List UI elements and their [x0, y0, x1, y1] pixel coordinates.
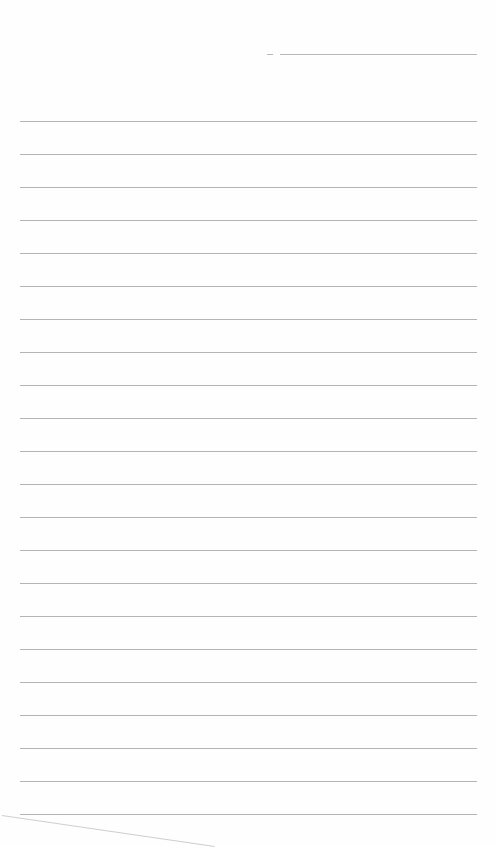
- ruled-line: [20, 253, 477, 254]
- ruled-line: [20, 451, 477, 452]
- header-long-line: [280, 54, 477, 55]
- ruled-line: [20, 286, 477, 287]
- ruled-line: [20, 517, 477, 518]
- ruled-line: [20, 154, 477, 155]
- paper-crease: [2, 815, 215, 847]
- ruled-line: [20, 649, 477, 650]
- ruled-line: [20, 187, 477, 188]
- ruled-line: [20, 418, 477, 419]
- ruled-line: [20, 616, 477, 617]
- ruled-line: [20, 814, 477, 815]
- ruled-line: [20, 550, 477, 551]
- ruled-line: [20, 385, 477, 386]
- ruled-line: [20, 682, 477, 683]
- ruled-line: [20, 583, 477, 584]
- ruled-line: [20, 220, 477, 221]
- ruled-line: [20, 319, 477, 320]
- header-short-line: [267, 54, 273, 55]
- ruled-line: [20, 748, 477, 749]
- ruled-line: [20, 121, 477, 122]
- ruled-line: [20, 781, 477, 782]
- ruled-line: [20, 484, 477, 485]
- ruled-line: [20, 715, 477, 716]
- ruled-line: [20, 352, 477, 353]
